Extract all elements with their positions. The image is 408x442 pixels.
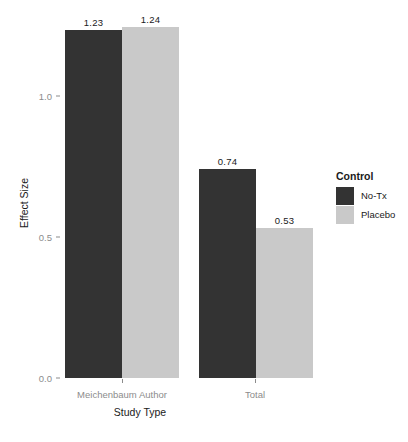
x-tick-label: Total xyxy=(245,389,265,400)
bar-chart: Effect Size 1.0 0.5 0.0 1.23 1.24 0.74 0… xyxy=(0,0,408,442)
bar-value-label: 1.24 xyxy=(122,14,179,25)
bar-value-label: 0.74 xyxy=(199,156,256,167)
y-axis-title: Effect Size xyxy=(18,178,30,228)
x-tick-mark xyxy=(122,379,123,383)
legend-swatch-icon xyxy=(336,206,354,224)
legend-item-placebo: Placebo xyxy=(336,205,395,224)
legend-item-label: Placebo xyxy=(361,209,395,220)
y-tick-label: 0.0 xyxy=(8,373,52,384)
x-axis-title: Study Type xyxy=(0,406,344,418)
x-tick-label: Meichenbaum Author xyxy=(77,389,167,400)
y-tick-label: 0.5 xyxy=(8,232,52,243)
y-tick-mark xyxy=(56,96,60,97)
plot-panel: 1.23 1.24 0.74 0.53 xyxy=(62,12,317,378)
bar-meichenbaum-no-tx xyxy=(65,30,122,378)
legend: Control No-Tx Placebo xyxy=(336,170,395,224)
legend-item-no-tx: No-Tx xyxy=(336,186,395,205)
bar-meichenbaum-placebo xyxy=(122,27,179,378)
legend-item-label: No-Tx xyxy=(361,190,387,201)
bar-value-label: 0.53 xyxy=(256,215,313,226)
legend-title: Control xyxy=(336,170,395,182)
legend-swatch-icon xyxy=(336,187,354,205)
bar-value-label: 1.23 xyxy=(65,17,122,28)
bar-total-placebo xyxy=(256,228,313,378)
x-tick-mark xyxy=(255,379,256,383)
bar-total-no-tx xyxy=(199,169,256,378)
y-tick-mark xyxy=(56,237,60,238)
y-tick-mark xyxy=(56,378,60,379)
y-tick-label: 1.0 xyxy=(8,91,52,102)
